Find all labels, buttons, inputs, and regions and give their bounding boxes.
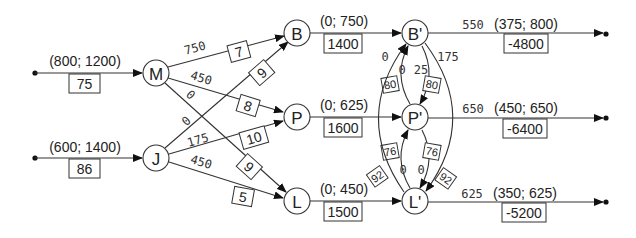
source-cost-text: 86 bbox=[77, 161, 93, 177]
edge-bounds-label: (0; 750) bbox=[320, 13, 368, 29]
edge-curve bbox=[425, 43, 453, 191]
sink-dot bbox=[603, 115, 608, 120]
sink-cost-text: -5200 bbox=[506, 205, 542, 221]
node-label: B bbox=[291, 25, 302, 44]
sink-dot bbox=[603, 199, 608, 204]
edge-line bbox=[169, 162, 283, 198]
sink-flow-label: 625 bbox=[461, 187, 483, 201]
node-label: L' bbox=[409, 193, 422, 212]
edge-line bbox=[165, 42, 288, 148]
node-label: J bbox=[152, 150, 161, 169]
edge-cost-text: 76 bbox=[425, 145, 439, 159]
node-label: M bbox=[149, 65, 163, 84]
source-cost-text: 75 bbox=[77, 76, 93, 92]
node-label: B' bbox=[408, 25, 423, 44]
edge-flow-label: 0 bbox=[417, 163, 424, 177]
edge-B2-L2: 175 92 bbox=[425, 43, 459, 191]
sink-edge-L2: 625 (350; 625) -5200 bbox=[428, 185, 609, 222]
node-P: P bbox=[284, 104, 310, 130]
edge-flow-label: 0 bbox=[399, 163, 406, 177]
edge-flow-label: 0 bbox=[183, 87, 198, 102]
edge-flow-label: 175 bbox=[186, 130, 211, 149]
edge-B-B2: (0; 750) 1400 bbox=[310, 13, 401, 53]
network-flow-diagram: (800; 1200) 75 (600; 1400) 86 750 7 450 … bbox=[0, 0, 636, 238]
edge-P-P2: (0; 625) 1600 bbox=[310, 97, 401, 137]
edge-bounds-label: (0; 625) bbox=[320, 97, 368, 113]
node-L: L bbox=[284, 188, 310, 214]
sink-bounds-label: (450; 650) bbox=[494, 100, 558, 116]
node-label: P' bbox=[408, 109, 423, 128]
sink-flow-label: 650 bbox=[462, 102, 484, 116]
edge-flow-label: 0 bbox=[381, 50, 388, 64]
edge-flow-label: 750 bbox=[183, 39, 208, 58]
edge-cost-text: 80 bbox=[425, 78, 439, 92]
sink-edge-B2: 550 (375; 800) -4800 bbox=[428, 16, 609, 53]
edge-cost-text: 80 bbox=[383, 78, 397, 92]
edge-L-L2: (0; 450) 1500 bbox=[310, 181, 401, 221]
edge-cost-text: 1500 bbox=[327, 204, 358, 220]
edge-J-L: 450 5 bbox=[169, 152, 283, 206]
node-P-prime: P' bbox=[402, 104, 428, 130]
source-bounds-label: (600; 1400) bbox=[49, 139, 121, 155]
node-M: M bbox=[143, 60, 169, 86]
sink-dot bbox=[603, 31, 608, 36]
node-label: L bbox=[292, 193, 301, 212]
source-bounds-label: (800; 1200) bbox=[49, 53, 121, 69]
node-L-prime: L' bbox=[402, 188, 428, 214]
node-B-prime: B' bbox=[402, 20, 428, 46]
sink-flow-label: 550 bbox=[462, 18, 484, 32]
edge-bounds-label: (0; 450) bbox=[320, 181, 368, 197]
edge-flow-label: 25 bbox=[414, 63, 428, 77]
edge-cost-text: 1600 bbox=[327, 120, 358, 136]
edge-J-B: 0 9 bbox=[165, 42, 288, 148]
edge-curve bbox=[420, 130, 429, 188]
node-B: B bbox=[284, 20, 310, 46]
edge-flow-label: 0 bbox=[398, 63, 405, 77]
source-edge-M: (800; 1200) 75 bbox=[32, 53, 142, 93]
sink-cost-text: -4800 bbox=[508, 36, 544, 52]
sink-edge-P2: 650 (450; 650) -6400 bbox=[428, 100, 609, 138]
source-edge-J: (600; 1400) 86 bbox=[32, 139, 142, 178]
edge-curve bbox=[401, 130, 410, 188]
edge-cost-text: 1400 bbox=[327, 36, 358, 52]
sink-bounds-label: (375; 800) bbox=[494, 16, 558, 32]
node-label: P bbox=[291, 109, 302, 128]
sink-bounds-label: (350; 625) bbox=[493, 185, 557, 201]
node-J: J bbox=[143, 145, 169, 171]
edge-flow-label: 175 bbox=[437, 50, 459, 64]
edge-flow-label: 0 bbox=[179, 113, 194, 128]
sink-cost-text: -6400 bbox=[507, 121, 543, 137]
